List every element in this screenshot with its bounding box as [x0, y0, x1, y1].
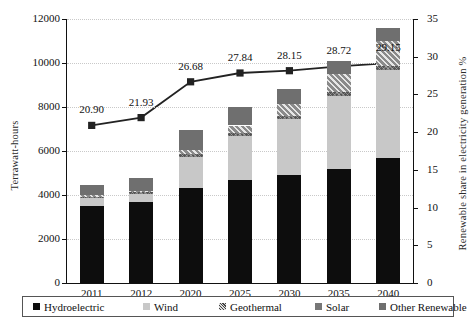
legend-swatch-icon [33, 303, 40, 310]
y-axis-tick-left [62, 239, 67, 240]
legend-item-wind[interactable]: Wind [143, 301, 178, 313]
y-axis-tick-label-right: 25 [427, 87, 453, 99]
y-axis-tick-left [62, 195, 67, 196]
legend-item-label: Solar [326, 301, 349, 313]
bar-segment-geothermal [277, 116, 301, 120]
bar-stack [179, 19, 203, 283]
legend-item-label: Other Renewable [390, 301, 467, 313]
y-axis-tick-label-right: 10 [427, 201, 453, 213]
y-axis-tick-left [62, 19, 67, 20]
y-axis-tick-label-right: 30 [427, 50, 453, 62]
y-axis-tick-label-left: 0 [5, 276, 60, 288]
bar-segment-other-renewable [80, 185, 104, 195]
legend-item-hydroelectric[interactable]: Hydroelectric [33, 301, 104, 313]
bar-segment-other-renewable [277, 89, 301, 104]
bar-segment-other-renewable [376, 28, 400, 42]
y-axis-tick-label-left: 2000 [5, 232, 60, 244]
bar-stack [327, 19, 351, 283]
chart-legend: HydroelectricWindGeothermalSolarOther Re… [22, 296, 454, 317]
y-axis-tick-label-right: 15 [427, 163, 453, 175]
legend-item-label: Wind [154, 301, 178, 313]
bar-segment-solar [129, 191, 153, 193]
y-axis-tick-label-left: 12000 [5, 12, 60, 24]
line-point-label: 20.90 [70, 103, 114, 115]
y-axis-tick-right [413, 245, 418, 246]
bar-segment-other-renewable [129, 178, 153, 191]
y-axis-tick-left [62, 63, 67, 64]
bar-segment-hydroelectric [327, 169, 351, 283]
line-point-label: 28.15 [267, 49, 311, 61]
bar-segment-geothermal [376, 66, 400, 70]
bar-segment-geothermal [327, 92, 351, 96]
y-axis-tick-right [413, 170, 418, 171]
y-axis-tick-label-left: 6000 [5, 144, 60, 156]
bar-stack [376, 19, 400, 283]
y-axis-tick-label-right: 35 [427, 12, 453, 24]
bar-segment-wind [376, 70, 400, 158]
bar-segment-wind [327, 96, 351, 169]
bar-segment-solar [228, 126, 252, 133]
y-axis-title-right: Renewable share in electricity generatio… [457, 54, 468, 254]
y-axis-tick-left [62, 107, 67, 108]
bar-segment-other-renewable [228, 107, 252, 125]
legend-item-geothermal[interactable]: Geothermal [219, 301, 282, 313]
y-axis-tick-right [413, 57, 418, 58]
y-axis-tick-right [413, 19, 418, 20]
bar-segment-wind [277, 119, 301, 175]
y-axis-tick-label-left: 10000 [5, 56, 60, 68]
bar-segment-geothermal [129, 192, 153, 194]
bar-segment-hydroelectric [277, 175, 301, 283]
legend-swatch-icon [219, 303, 226, 310]
bar-stack [80, 19, 104, 283]
bar-segment-geothermal [228, 133, 252, 136]
bar-segment-hydroelectric [376, 158, 400, 283]
line-point-label: 27.84 [218, 51, 262, 63]
y-axis-tick-right [413, 94, 418, 95]
line-point-label: 26.68 [169, 60, 213, 72]
bar-segment-wind [129, 194, 153, 202]
bar-segment-other-renewable [327, 61, 351, 75]
y-axis-tick-label-left: 8000 [5, 100, 60, 112]
line-point-label: 28.72 [317, 44, 361, 56]
y-axis-tick-right [413, 132, 418, 133]
y-axis-tick-label-right: 5 [427, 238, 453, 250]
legend-swatch-icon [315, 303, 322, 310]
bar-segment-hydroelectric [129, 202, 153, 283]
bar-segment-wind [80, 198, 104, 206]
y-axis-tick-right [413, 208, 418, 209]
bar-segment-geothermal [179, 154, 203, 157]
bar-segment-other-renewable [179, 130, 203, 150]
y-axis-tick-label-right: 20 [427, 125, 453, 137]
line-point-label: 29.15 [366, 41, 410, 53]
y-axis-tick-label-right: 0 [427, 276, 453, 288]
legend-item-label: Geothermal [230, 301, 282, 313]
bar-segment-solar [80, 195, 104, 196]
y-axis-tick-left [62, 151, 67, 152]
legend-item-solar[interactable]: Solar [315, 301, 349, 313]
bar-stack [129, 19, 153, 283]
bar-segment-hydroelectric [179, 188, 203, 283]
bar-segment-geothermal [80, 197, 104, 199]
plot-area: 0200040006000800010000120000510152025303… [66, 19, 414, 284]
bar-segment-solar [179, 150, 203, 154]
legend-item-other-renewable[interactable]: Other Renewable [379, 301, 467, 313]
y-axis-tick-left [62, 283, 67, 284]
line-point-label: 21.93 [119, 96, 163, 108]
bar-segment-solar [327, 74, 351, 92]
legend-swatch-icon [143, 303, 150, 310]
bar-segment-hydroelectric [228, 180, 252, 283]
legend-item-label: Hydroelectric [44, 301, 104, 313]
bar-segment-hydroelectric [80, 206, 104, 283]
bar-segment-wind [228, 136, 252, 180]
bar-segment-solar [277, 104, 301, 115]
y-axis-tick-right [413, 283, 418, 284]
renewable-generation-chart: Terrawatt-hours Renewable share in elect… [0, 0, 475, 326]
bar-segment-wind [179, 157, 203, 188]
legend-swatch-icon [379, 303, 386, 310]
y-axis-tick-label-left: 4000 [5, 188, 60, 200]
